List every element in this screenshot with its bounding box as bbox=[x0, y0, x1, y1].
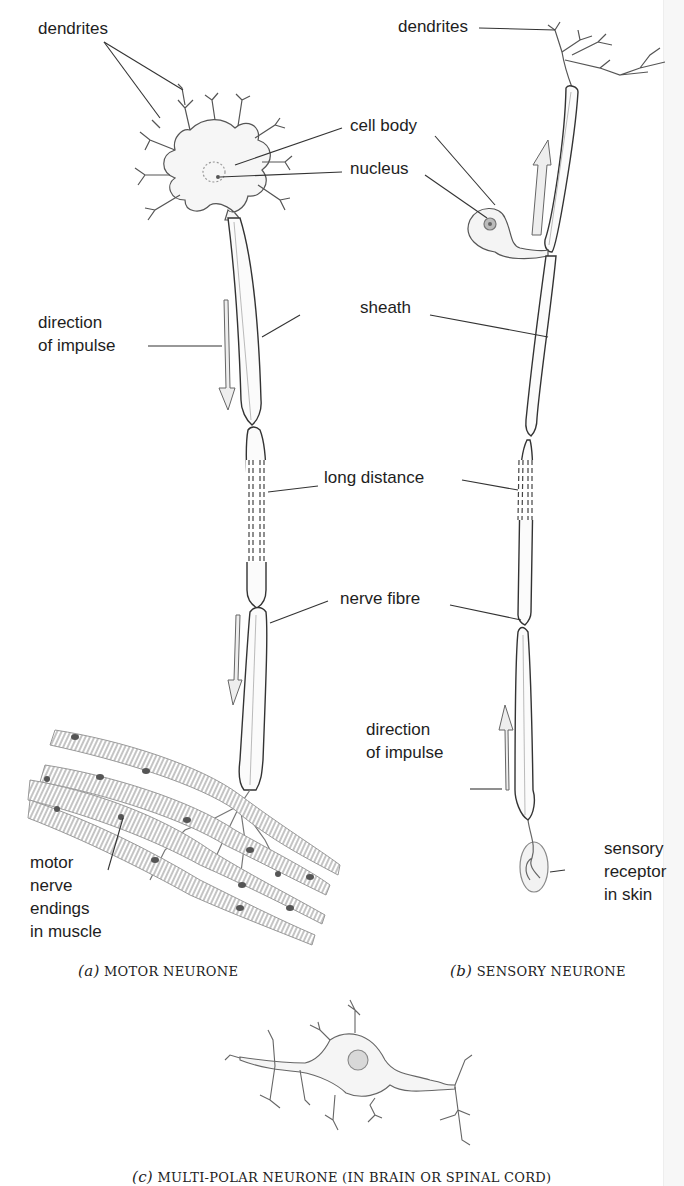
label-direction-sensory-1: direction bbox=[366, 719, 430, 740]
label-direction-motor-1: direction bbox=[38, 312, 102, 333]
sensory-neurone bbox=[468, 22, 665, 892]
label-motor-endings-3: endings bbox=[30, 898, 90, 919]
caption-sensory-neurone: (b) SENSORY NEURONE bbox=[450, 962, 626, 980]
label-sheath: sheath bbox=[360, 297, 411, 318]
label-cell-body: cell body bbox=[350, 115, 417, 136]
label-nucleus: nucleus bbox=[350, 158, 409, 179]
caption-letter-c: (c) bbox=[132, 1168, 153, 1186]
label-motor-endings-1: motor bbox=[30, 852, 73, 873]
motor-impulse-arrow-1 bbox=[219, 300, 235, 410]
label-receptor-1: sensory bbox=[604, 838, 664, 859]
sensory-receptor bbox=[520, 842, 548, 892]
label-receptor-3: in skin bbox=[604, 884, 652, 905]
caption-motor-neurone: (a) MOTOR NEURONE bbox=[78, 962, 238, 980]
label-motor-endings-4: in muscle bbox=[30, 921, 102, 942]
label-direction-sensory-2: of impulse bbox=[366, 742, 443, 763]
label-long-distance: long distance bbox=[324, 467, 424, 488]
motor-cell-body bbox=[164, 120, 271, 220]
motor-impulse-arrow-2 bbox=[228, 615, 242, 705]
label-motor-endings-2: nerve bbox=[30, 875, 73, 896]
label-direction-motor-2: of impulse bbox=[38, 335, 115, 356]
caption-text-c: MULTI-POLAR NEURONE (IN BRAIN OR SPINAL … bbox=[157, 1170, 551, 1185]
caption-multipolar-neurone: (c) MULTI-POLAR NEURONE (IN BRAIN OR SPI… bbox=[132, 1168, 551, 1186]
multipolar-nucleus bbox=[348, 1050, 368, 1070]
sensory-impulse-arrow-2 bbox=[499, 705, 513, 790]
caption-letter-b: (b) bbox=[450, 962, 472, 980]
label-receptor-2: receptor bbox=[604, 861, 666, 882]
label-nerve-fibre: nerve fibre bbox=[340, 588, 420, 609]
caption-text-a: MOTOR NEURONE bbox=[104, 964, 238, 979]
label-dendrites-motor: dendrites bbox=[38, 18, 108, 39]
sensory-impulse-arrow-1 bbox=[532, 140, 551, 235]
multipolar-neurone bbox=[225, 1000, 472, 1145]
caption-letter-a: (a) bbox=[78, 962, 100, 980]
caption-text-b: SENSORY NEURONE bbox=[477, 964, 626, 979]
label-dendrites-sensory: dendrites bbox=[398, 16, 468, 37]
